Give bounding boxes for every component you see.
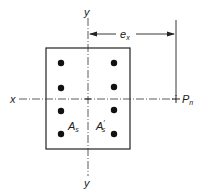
- x-axis-label: x: [9, 93, 16, 105]
- bar: [58, 60, 64, 66]
- bar: [111, 131, 117, 137]
- bar: [58, 108, 64, 114]
- steel-area-right-label: A′s: [95, 119, 106, 133]
- load-label: Pn: [182, 93, 193, 106]
- eccentricity-label: ex: [120, 28, 130, 41]
- eccentricity-dimension: [89, 32, 175, 37]
- y-axis-label-bottom: y: [83, 177, 91, 189]
- arrow-right-icon: [167, 32, 175, 37]
- steel-area-left-label: As: [67, 120, 79, 133]
- bar: [111, 84, 117, 90]
- bar: [58, 131, 64, 137]
- bar: [111, 60, 117, 66]
- arrow-left-icon: [89, 32, 97, 37]
- column-section-diagram: y y x ex Pn As A′s: [0, 0, 201, 194]
- bar: [58, 85, 64, 91]
- y-axis-label-top: y: [83, 6, 91, 18]
- bar: [111, 107, 117, 113]
